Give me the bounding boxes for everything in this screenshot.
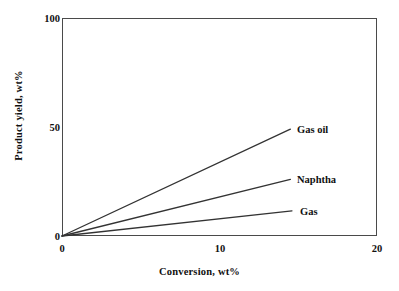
x-tick-label-10: 10	[215, 244, 226, 255]
x-axis-title: Conversion, wt%	[0, 266, 399, 277]
series-label-naphtha: Naphtha	[297, 174, 336, 185]
y-tick-label-0: 0	[55, 232, 60, 243]
x-tick-label-20: 20	[372, 244, 383, 255]
y-tick-label-50: 50	[50, 123, 61, 134]
series-label-gas: Gas	[300, 206, 318, 217]
series-label-gas-oil: Gas oil	[297, 124, 328, 135]
x-tick-label-0: 0	[59, 244, 64, 255]
y-axis-title: Product yield, wt%	[13, 46, 24, 186]
plot-area-frame	[62, 18, 377, 236]
y-tick-label-100: 100	[44, 14, 60, 25]
chart-figure: 100 50 0 0 10 20 Conversion, wt% Product…	[0, 0, 399, 291]
